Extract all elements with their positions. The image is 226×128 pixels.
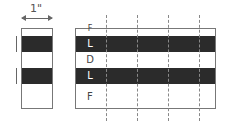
dashed-line-3 bbox=[168, 15, 169, 121]
band-dimension-tick-1 bbox=[16, 36, 17, 52]
band-dimension-tick-2 bbox=[16, 68, 17, 84]
left-dark-band-1 bbox=[22, 36, 52, 52]
dashed-line-2 bbox=[137, 15, 138, 121]
band-label-l-1: L bbox=[82, 38, 98, 49]
dimension-arrow-right-icon bbox=[48, 15, 53, 21]
dimension-label: 1" bbox=[30, 2, 42, 15]
band-label-l-2: L bbox=[82, 70, 98, 81]
band-label-d: D bbox=[82, 54, 98, 65]
left-dark-band-2 bbox=[22, 68, 52, 84]
dashed-line-4 bbox=[199, 15, 200, 121]
band-label-f-top: F bbox=[82, 24, 98, 33]
dashed-line-1 bbox=[106, 15, 107, 121]
band-label-f-bottom: F bbox=[82, 91, 98, 102]
